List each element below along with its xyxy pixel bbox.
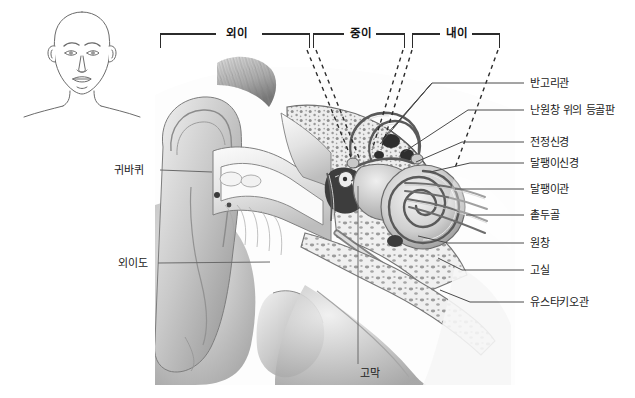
head-inset [14, 6, 150, 118]
label-tympanic-cavity: 고실 [530, 264, 550, 277]
bracket-label-outer-ear: 외이 [226, 27, 248, 40]
label-cochlea: 달팽이관 [530, 183, 569, 196]
label-auricle: 귀바퀴 [114, 164, 143, 177]
bracket-middle-left [314, 34, 345, 48]
label-eustachian-tube: 유스타키오관 [530, 296, 589, 309]
ear-anatomy-figure: 외이 중이 내이 귀바퀴 외이도 반고리관 난원창 위의 등골판 전정신경 달팽… [0, 0, 635, 398]
label-semicircular-canals: 반고리관 [530, 77, 569, 90]
label-ear-canal: 외이도 [118, 257, 147, 270]
label-eardrum: 고막 [360, 367, 380, 380]
ear-anatomy-artwork [155, 55, 515, 385]
label-stapes-footplate-oval-window: 난원창 위의 등골판 [530, 104, 615, 117]
bracket-middle-right [376, 34, 405, 48]
ear-cross-section-illustration [155, 55, 515, 385]
bracket-label-inner-ear: 내이 [446, 27, 468, 40]
bracket-outer-left [161, 34, 217, 48]
bracket-inner-right [472, 34, 500, 48]
label-round-window: 원창 [530, 237, 550, 250]
label-vestibular-nerve: 전정신경 [530, 136, 569, 149]
bracket-inner-left [413, 34, 441, 48]
label-cochlear-nerve: 달팽이신경 [530, 157, 579, 170]
bracket-outer-right [262, 34, 310, 48]
label-temporal-bone: 촡두골 [530, 209, 559, 222]
bracket-label-middle-ear: 중이 [350, 27, 372, 40]
frontal-head-outline-icon [14, 6, 150, 118]
